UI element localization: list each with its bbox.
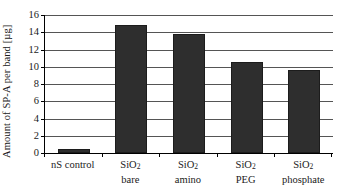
y-tick-label-4: 4 [34,113,39,124]
subscript: 2 [252,162,256,171]
bar-sio2-phosphate [288,70,320,153]
y-tick-label-6: 6 [34,96,39,107]
subscript: 2 [194,162,198,171]
x-tick-1 [102,153,103,157]
x-label-sio2-bare: SiO2bare [102,158,160,186]
subscript: 2 [137,162,141,171]
bar-sio2-amino [173,34,205,153]
x-tick-4 [274,153,275,157]
x-label-ns-control: nS control [44,158,102,171]
x-label-line1: SiO2 [217,158,275,173]
y-tick-label-2: 2 [34,131,39,142]
x-label-line2: bare [102,173,160,186]
x-label-sio2-phosphate: SiO2phosphate [274,158,332,186]
y-tick-label-0: 0 [34,148,39,159]
bars-group [45,15,333,153]
bar-chart-figure: Amount of SP-A per band [µg] 16 14 12 10… [0,0,342,194]
x-tick-2 [159,153,160,157]
x-label-line1: SiO2 [274,158,332,173]
x-axis-category-labels: nS controlSiO2bareSiO2aminoSiO2PEGSiO2ph… [44,158,332,194]
x-tick-3 [217,153,218,157]
x-tick-5 [331,153,332,157]
x-label-sio2-peg: SiO2PEG [217,158,275,186]
x-label-line2: PEG [217,173,275,186]
x-label-line1: SiO2 [159,158,217,173]
subscript: 2 [309,162,313,171]
y-tick-label-14: 14 [29,27,40,38]
y-tick-label-8: 8 [34,79,39,90]
bar-sio2-peg [231,62,263,153]
x-label-line2: amino [159,173,217,186]
x-tick-0 [44,153,45,157]
bar-sio2-bare [115,25,147,154]
y-tick-label-12: 12 [29,44,40,55]
y-axis-tick-labels: 16 14 12 10 8 6 4 2 0 [16,15,42,153]
y-tick-label-16: 16 [29,10,40,21]
x-label-line1: SiO2 [102,158,160,173]
x-label-line2: phosphate [274,173,332,186]
plot-area [44,15,333,153]
y-axis-title: Amount of SP-A per band [µg] [2,25,13,158]
x-label-sio2-amino: SiO2amino [159,158,217,186]
x-label-line1: nS control [44,158,102,171]
y-tick-label-10: 10 [29,62,40,73]
